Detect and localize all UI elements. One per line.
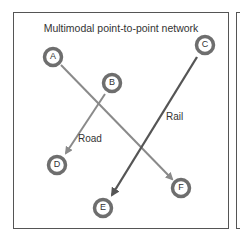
node-label-a: A (49, 51, 57, 61)
rail-link-c-e (112, 57, 197, 195)
road-label: Road (78, 133, 102, 144)
road-link-b-d (66, 94, 105, 153)
node-label-d: D (53, 159, 61, 169)
node-label-c: C (201, 39, 209, 49)
node-label-b: B (108, 77, 116, 87)
rail-label: Rail (166, 111, 183, 122)
network-diagram (0, 0, 240, 237)
diagram-title: Multimodal point-to-point network (13, 22, 229, 34)
node-label-e: E (99, 202, 107, 212)
node-label-f: F (177, 182, 185, 192)
